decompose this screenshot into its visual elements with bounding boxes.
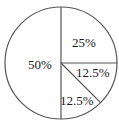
pie-chart: 25% 50% 12.5% 12.5% bbox=[0, 0, 119, 124]
slice-label-50: 50% bbox=[28, 57, 52, 72]
slice-label-12-5-lower: 12.5% bbox=[60, 93, 94, 108]
slice-label-12-5-upper: 12.5% bbox=[76, 65, 110, 80]
slice-label-25: 25% bbox=[72, 35, 96, 50]
